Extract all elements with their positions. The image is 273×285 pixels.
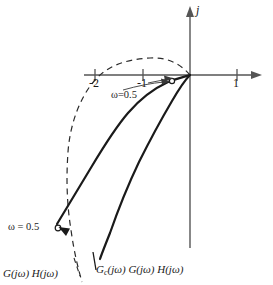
omega-label-uncompensated: ω = 0.5 [8,222,39,233]
curve-label-compensated-prefix: G [96,263,104,275]
compensated-lower-path [100,75,190,259]
plot-canvas [0,0,273,285]
omega-label-compensated: ω=0.5 [111,90,137,101]
curve-label-uncompensated: G(jω) H(jω) [3,268,58,279]
tick-label-minus-1: -1 [137,77,147,89]
real-axis-arrow-icon [251,71,262,79]
curve-label-compensated: Gc(jω) G(jω) H(jω) [96,264,183,277]
nyquist-plot-figure: -2 -1 1 j ω=0.5 ω = 0.5 G(jω) H(jω) Gc(j… [0,0,273,285]
imaginary-axis [186,6,194,248]
imaginary-axis-label: j [196,4,199,16]
curve-label-compensated-rest: (jω) G(jω) H(jω) [108,263,184,275]
tick-label-minus-2: -2 [89,77,99,89]
tick-label-plus-1: 1 [233,77,239,89]
imaginary-axis-arrow-icon [186,6,194,17]
omega-left-arrow-icon [59,227,71,236]
curve-compensated-lower [100,75,190,259]
